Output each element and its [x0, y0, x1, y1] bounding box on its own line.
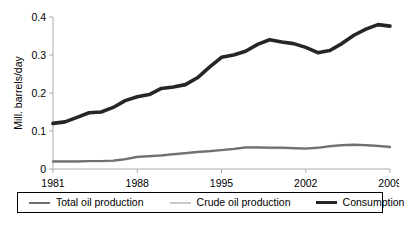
series-line-crude-oil-production [53, 145, 390, 162]
series-line-total-oil-production [53, 145, 390, 162]
legend-item-total-oil-production: Total oil production [29, 197, 144, 208]
series-line-consumption [53, 25, 390, 124]
y-tick-label: 0.2 [31, 87, 46, 99]
x-axis-ticks: 19811988199520022009 [41, 169, 399, 189]
y-axis-label-group: Mill. barrels/day [12, 55, 24, 129]
x-tick-label: 2009 [378, 177, 399, 189]
legend-item-crude-oil-production: Crude oil production [170, 197, 291, 208]
x-tick-label: 2002 [294, 177, 318, 189]
x-tick-label: 1995 [210, 177, 234, 189]
y-tick-label: 0.3 [31, 49, 46, 61]
legend-label-consumption: Consumption [343, 197, 404, 208]
legend-label-total-oil-production: Total oil production [56, 197, 144, 208]
legend-label-crude-oil-production: Crude oil production [197, 197, 291, 208]
x-tick-label: 1988 [126, 177, 150, 189]
y-tick-label: 0.4 [31, 11, 46, 23]
y-axis-label: Mill. barrels/day [12, 55, 24, 129]
y-tick-label: 0.1 [31, 125, 46, 137]
y-axis-ticks: 00.10.20.30.4 [31, 11, 53, 175]
data-series-layer [53, 25, 390, 162]
legend-swatch-crude-oil-production [170, 202, 191, 204]
legend-swatch-total-oil-production [29, 202, 50, 204]
legend-swatch-consumption [316, 201, 337, 204]
legend-item-consumption: Consumption [316, 197, 404, 208]
x-tick-label: 1981 [41, 177, 65, 189]
chart-legend: Total oil production Crude oil productio… [17, 192, 383, 213]
y-tick-label: 0 [40, 163, 46, 175]
